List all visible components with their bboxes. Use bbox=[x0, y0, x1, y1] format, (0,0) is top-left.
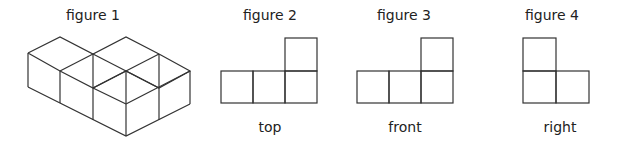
figure-2-top-view bbox=[221, 38, 317, 103]
figure-2-caption: top bbox=[259, 120, 282, 134]
figure-4-caption: right bbox=[544, 120, 577, 134]
figure-4-right-view bbox=[523, 38, 589, 103]
diagram-canvas bbox=[0, 0, 617, 147]
figure-3-front-view bbox=[357, 38, 453, 103]
figure-1-isometric bbox=[28, 37, 190, 136]
figure-3-caption: front bbox=[388, 120, 421, 134]
